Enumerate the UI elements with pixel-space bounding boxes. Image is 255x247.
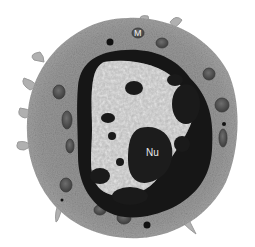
nucleolus-label: Nu [146,148,159,158]
cell-micrograph [0,0,255,247]
mitochondrion-label: M [134,28,142,38]
